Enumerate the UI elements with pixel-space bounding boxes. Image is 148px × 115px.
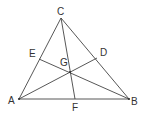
point-a-dot (18, 98, 20, 100)
label-a: A (8, 95, 15, 106)
side-bc (61, 18, 129, 99)
label-g: G (60, 57, 68, 68)
label-b: B (131, 96, 138, 107)
label-f: F (72, 102, 78, 113)
label-c: C (57, 6, 64, 17)
label-d: D (100, 47, 107, 58)
labels: A B C D E F G (8, 6, 138, 113)
label-e: E (29, 48, 36, 59)
cevian-ad (19, 58, 97, 99)
side-ca (19, 18, 61, 99)
point-b-dot (128, 98, 130, 100)
triangle-diagram: A B C D E F G (0, 0, 148, 115)
point-g-dot (69, 71, 71, 73)
